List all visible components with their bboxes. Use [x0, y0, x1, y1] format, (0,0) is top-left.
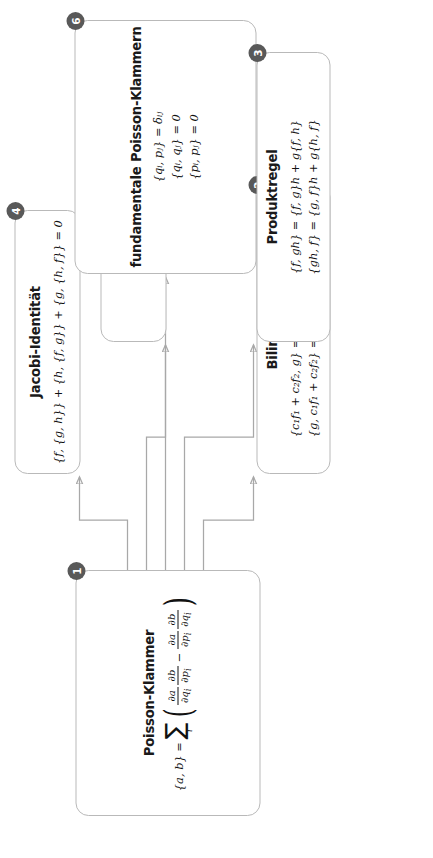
- formula-line: {qᵢ, qⱼ} = 0: [168, 114, 184, 180]
- node-1-title: Poisson-Klammer: [142, 630, 157, 756]
- minus-operator: −: [171, 653, 185, 663]
- formula-line: {qᵢ, pⱼ} = δᵢⱼ: [150, 112, 166, 183]
- fraction-db-dp: ∂b ∂pi: [165, 666, 192, 684]
- formula-line: {f, gh} = {f, g}h + g{f, h}: [287, 120, 303, 274]
- formula-line: {f, {g, h}} + {h, {f, g}} + {g, {h, f}} …: [50, 220, 66, 464]
- node-3-badge: 3: [248, 44, 266, 62]
- node-4-formulas: {f, {g, h}} + {h, {f, g}} + {g, {h, f}} …: [50, 220, 66, 464]
- node-poisson-klammer[interactable]: Poisson-Klammer {a, b} = ∑ i ( ∂a ∂qi ∂b…: [75, 570, 260, 816]
- node-3-formulas: {f, gh} = {f, g}h + g{f, h} {gh, f} = {g…: [287, 119, 320, 274]
- formula-line: {pᵢ, pⱼ} = 0: [186, 114, 202, 180]
- edge-1-to-2: [203, 477, 253, 570]
- edge-1-to-3: [184, 345, 253, 570]
- node-produktregel[interactable]: Produktregel {f, gh} = {f, g}h + g{f, h}…: [256, 52, 330, 342]
- node-1-formula: {a, b} = ∑ i ( ∂a ∂qi ∂b ∂pi −: [164, 595, 193, 791]
- diagram-canvas: Poisson-Klammer {a, b} = ∑ i ( ∂a ∂qi ∂b…: [0, 0, 433, 858]
- paren-close: ): [167, 598, 190, 607]
- formula-line: {gh, f} = {g, f}h + g{h, f}: [305, 119, 321, 274]
- node-6-formulas: {qᵢ, pⱼ} = δᵢⱼ {qᵢ, qⱼ} = 0 {pᵢ, pⱼ} = 0: [150, 112, 201, 183]
- node-6-badge: 6: [66, 12, 84, 30]
- sum-symbol: ∑ i: [164, 722, 193, 739]
- node-4-badge: 4: [6, 202, 24, 220]
- node-1-lhs: {a, b} =: [171, 742, 185, 791]
- node-1-badge: 1: [67, 562, 85, 580]
- fraction-db-dq: ∂b ∂qi: [165, 610, 192, 628]
- edge-1-to-5: [146, 345, 165, 570]
- node-3-title: Produktregel: [265, 149, 280, 244]
- fraction-da-dp: ∂a ∂pi: [165, 631, 192, 649]
- paren-open: (: [167, 709, 190, 718]
- edge-1-to-4: [79, 477, 127, 570]
- node-jacobi-identitaet[interactable]: Jacobi-Identität {f, {g, h}} + {h, {f, g…: [14, 210, 80, 474]
- fraction-da-dq: ∂a ∂qi: [165, 687, 192, 705]
- node-4-title: Jacobi-Identität: [28, 286, 43, 398]
- node-fundamentale-poisson-klammern[interactable]: fundamentale Poisson-Klammern {qᵢ, pⱼ} =…: [74, 20, 256, 274]
- diagram-stage: Poisson-Klammer {a, b} = ∑ i ( ∂a ∂qi ∂b…: [0, 0, 433, 858]
- node-6-title: fundamentale Poisson-Klammern: [129, 26, 144, 267]
